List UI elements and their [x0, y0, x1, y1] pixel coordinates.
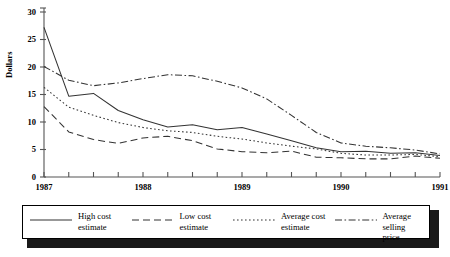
- legend-label-line2: estimate: [281, 222, 325, 233]
- chart-legend: High costestimateLow costestimateAverage…: [22, 205, 434, 245]
- legend-label-line1: Average cost: [281, 211, 325, 222]
- legend-item[interactable]: Average sellingprice: [328, 211, 430, 243]
- y-axis-tick-label: 10: [16, 117, 36, 127]
- legend-label-line1: Low cost: [180, 211, 212, 222]
- x-axis-tick-label: 1987: [24, 182, 64, 192]
- legend-swatch-dotted: [232, 212, 276, 224]
- legend-label: Average sellingprice: [378, 211, 430, 243]
- y-axis-title: Dollars: [4, 64, 14, 78]
- legend-label-line1: High cost: [78, 211, 111, 222]
- y-axis-tick-label: 0: [16, 172, 36, 182]
- legend-label-line2: estimate: [180, 222, 212, 233]
- x-axis-tick-label: 1991: [420, 182, 450, 192]
- series-line-1: [44, 107, 440, 159]
- chart-page: Dollars 302520151050 1987198819891990199…: [0, 0, 450, 257]
- y-axis-tick-label: 15: [16, 89, 36, 99]
- legend-box: High costestimateLow costestimateAverage…: [22, 205, 430, 239]
- legend-label-line2: price: [383, 232, 430, 243]
- legend-item[interactable]: High costestimate: [23, 211, 125, 232]
- legend-swatch-solid: [29, 212, 73, 224]
- x-axis-tick-label: 1988: [123, 182, 163, 192]
- y-axis-tick-label: 20: [16, 62, 36, 72]
- legend-label: High costestimate: [73, 211, 111, 232]
- series-line-0: [44, 27, 440, 155]
- y-axis-tick-label: 30: [16, 7, 36, 17]
- legend-item[interactable]: Average costestimate: [226, 211, 328, 232]
- legend-label: Average costestimate: [276, 211, 325, 232]
- legend-item[interactable]: Low costestimate: [125, 211, 227, 232]
- chart-series: [44, 27, 440, 158]
- legend-label: Low costestimate: [175, 211, 212, 232]
- y-axis-tick-label: 25: [16, 34, 36, 44]
- series-line-2: [44, 87, 440, 156]
- x-axis-tick-label: 1990: [321, 182, 361, 192]
- chart-plot-area: Dollars 302520151050 1987198819891990199…: [0, 0, 450, 200]
- x-axis-tick-label: 1989: [222, 182, 262, 192]
- legend-swatch-dash-dot: [334, 212, 378, 224]
- legend-label-line1: Average selling: [383, 211, 430, 232]
- line-chart-svg: [0, 0, 450, 200]
- legend-label-line2: estimate: [78, 222, 111, 233]
- y-axis-tick-label: 5: [16, 144, 36, 154]
- legend-swatch-dashed: [131, 212, 175, 224]
